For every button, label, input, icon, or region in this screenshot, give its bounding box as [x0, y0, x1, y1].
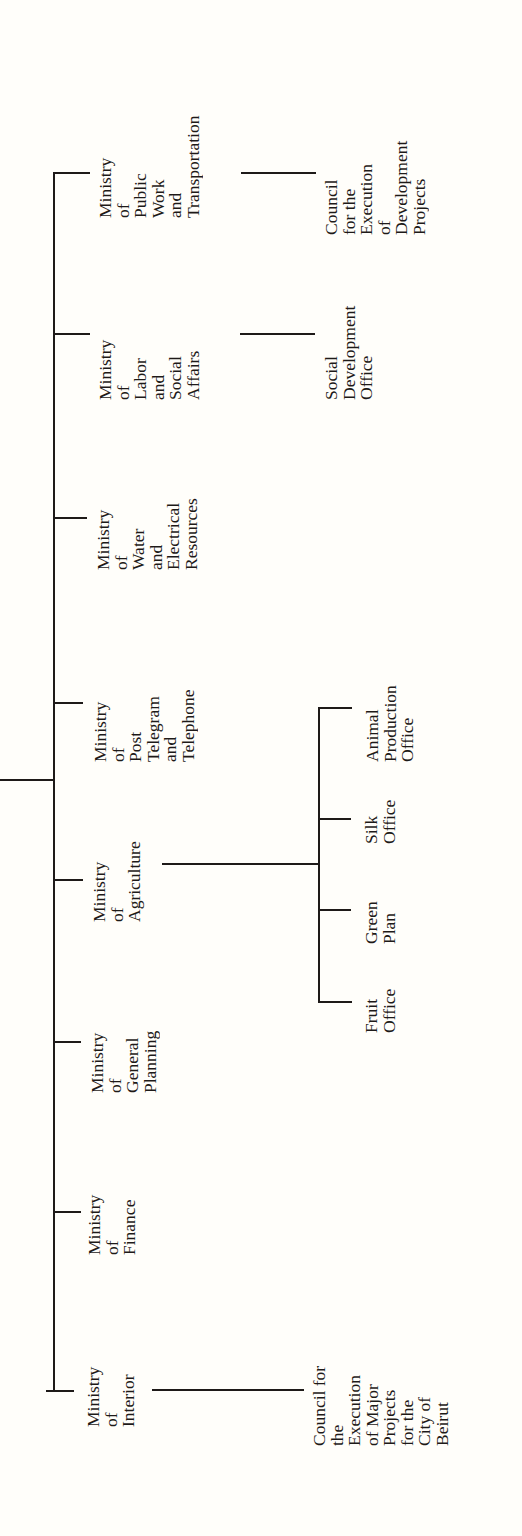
label-line: Ministry	[97, 290, 115, 400]
tick-fruit	[318, 1001, 352, 1003]
tick-finance	[53, 1211, 81, 1213]
connector-labor-social	[240, 333, 315, 335]
label-line: Ministry	[95, 460, 113, 570]
ministry-finance: Ministry of Finance	[86, 1175, 139, 1255]
label-line: Office	[399, 650, 417, 762]
label-line: Office	[381, 975, 399, 1033]
ministry-post: Ministry of Post Telegram and Telephone	[92, 637, 197, 762]
label-line: Transportation	[185, 68, 203, 218]
tick-interior	[46, 1390, 74, 1392]
unit-green-plan: Green Plan	[363, 880, 398, 944]
label-line: Execution	[358, 105, 376, 235]
label-line: Office	[358, 265, 376, 400]
tick-labor	[53, 333, 90, 335]
connector-public-work-council	[241, 172, 316, 174]
label-line: Ministry	[97, 68, 115, 218]
tick-green-plan	[318, 909, 351, 911]
unit-social-development-office: Social Development Office	[323, 265, 376, 400]
parent-stub-line	[0, 779, 55, 781]
unit-council-development-projects: Council for the Execution of Development…	[323, 105, 428, 235]
label-line: Office	[381, 789, 399, 844]
unit-silk-office: Silk Office	[363, 789, 398, 844]
tick-silk	[318, 818, 351, 820]
tick-planning	[53, 1041, 81, 1043]
tick-animal-production	[318, 707, 352, 709]
unit-fruit-office: Fruit Office	[363, 975, 398, 1033]
ministry-public-work: Ministry of Public Work and Transportati…	[97, 68, 202, 218]
tick-public-work	[53, 172, 90, 174]
label-line: Projects	[411, 105, 429, 235]
ministry-planning: Ministry of General Planning	[89, 1000, 159, 1093]
label-line: Finance	[121, 1175, 139, 1255]
unit-animal-production-office: Animal Production Office	[364, 650, 417, 762]
ministry-labor: Ministry of Labor and Social Affairs	[97, 290, 202, 400]
connector-interior-council	[152, 1389, 304, 1391]
label-line: Telephone	[180, 637, 198, 762]
label-line: Interior	[120, 1347, 138, 1427]
label-line: Ministry	[92, 637, 110, 762]
ministry-interior: Ministry of Interior	[85, 1347, 138, 1427]
tick-agriculture	[53, 879, 83, 881]
label-line: Ministry	[91, 808, 109, 922]
agriculture-branch-line	[318, 707, 320, 1002]
label-line: Agriculture	[126, 808, 144, 922]
tick-water	[53, 517, 87, 519]
ministry-water: Ministry of Water and Electrical Resourc…	[95, 460, 200, 570]
label-line: Planning	[142, 1000, 160, 1093]
connector-agriculture	[162, 863, 320, 865]
unit-council-major-projects-beirut: Council for the Execution of Major Proje…	[311, 1336, 451, 1446]
label-line: Plan	[381, 880, 399, 944]
label-line: Resources	[183, 460, 201, 570]
ministry-agriculture: Ministry of Agriculture	[91, 808, 144, 922]
label-line: Affairs	[185, 290, 203, 400]
tick-post	[53, 702, 83, 704]
trunk-line	[53, 172, 55, 1392]
label-line: Beirut	[434, 1336, 452, 1446]
